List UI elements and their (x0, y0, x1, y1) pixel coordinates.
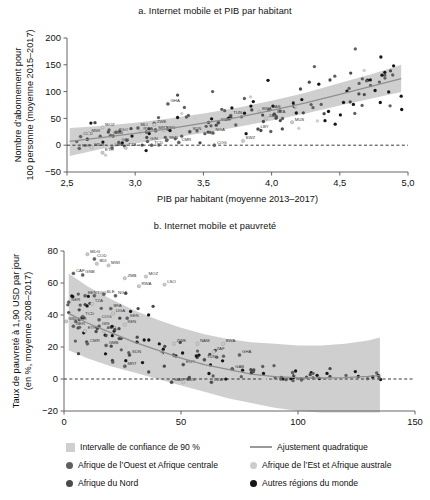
point-label-ner: NER (71, 297, 80, 302)
point-label-sle: SLE (106, 289, 114, 294)
panel-a-plot: CODNERMWIMDGMOZETHGMBTGOLBRGINTZAMLIRWAG… (0, 0, 430, 215)
x-tick-label: 4,5 (333, 177, 346, 188)
point-label-ago: AGO (106, 325, 116, 330)
data-point (220, 108, 223, 111)
data-point (230, 106, 233, 109)
data-point (100, 307, 103, 310)
data-point-tza (124, 146, 127, 149)
data-point-mli (136, 126, 139, 129)
dot-other-regions-icon (250, 480, 257, 487)
data-point-lby (256, 127, 259, 130)
x-tick-label: 3,5 (197, 177, 210, 188)
legend-item-north-africa: Afrique du Nord (66, 478, 138, 488)
legend-row-1: Intervalle de confiance de 90 % Ajusteme… (0, 442, 430, 458)
legend-item-quadratic-fit: Ajustement quadratique (250, 442, 368, 452)
data-point (74, 339, 77, 342)
legend-row-2: Afrique de l’Ouest et Afrique centrale A… (0, 460, 430, 476)
data-point (342, 101, 345, 104)
data-point (207, 372, 210, 375)
data-point-zmb (123, 277, 126, 280)
data-point (379, 55, 382, 58)
data-point-caf (72, 272, 75, 275)
data-point (309, 373, 312, 376)
data-point-cog (97, 318, 100, 321)
data-point (361, 77, 364, 80)
data-point (378, 80, 381, 83)
y-tick-label: 0 (53, 373, 58, 384)
data-point (349, 71, 352, 74)
legend-label-west-central-africa: Afrique de l’Ouest et Afrique centrale (78, 460, 218, 470)
data-point (210, 117, 213, 120)
svg-text:100 personne (moyenne 2015–201: 100 personne (moyenne 2015–2017) (25, 29, 35, 180)
data-point (400, 95, 403, 98)
data-point (117, 327, 120, 330)
point-label-nam: NAM (200, 338, 210, 343)
point-label-ben: BEN (169, 135, 178, 140)
data-point (281, 127, 284, 130)
legend: Intervalle de confiance de 90 % Ajusteme… (0, 440, 430, 500)
data-point (339, 84, 342, 87)
data-point (221, 359, 224, 362)
point-label-gin: GIN (121, 137, 129, 142)
y-tick-label: 50 (51, 113, 61, 124)
y-tick-label: −50 (45, 166, 61, 177)
data-point-ken (123, 323, 126, 326)
data-point (344, 374, 347, 377)
data-point-tun (229, 114, 232, 117)
data-point-cmr (86, 342, 89, 345)
data-point (243, 112, 246, 115)
data-point (261, 365, 264, 368)
point-label-mrt: MRT (127, 361, 137, 366)
data-point (333, 75, 336, 78)
data-point (181, 351, 184, 354)
panel-b-plot: MDGCODBDIMWICAFGNBZMBMOZRWALSONERBENTGOS… (0, 215, 430, 430)
data-point-egy (182, 363, 185, 366)
data-point (253, 120, 256, 123)
data-point (308, 81, 311, 84)
data-point-bwa (221, 342, 224, 345)
data-point (309, 103, 312, 106)
data-point-ben (165, 139, 168, 142)
data-point-eth (83, 329, 86, 332)
point-label-sdn: SDN (192, 126, 201, 131)
y-tick-label: 0 (56, 139, 61, 150)
panel-b: b. Internet mobile et pauvreté MDGCODBDI… (0, 215, 430, 430)
data-point (379, 101, 382, 104)
figure-container: a. Internet mobile et PIB par habitant C… (0, 0, 430, 500)
data-point-moz (101, 126, 104, 129)
dot-east-southern-africa-icon (250, 462, 257, 469)
data-point (294, 372, 297, 375)
point-label-mus: MUS (295, 117, 305, 122)
data-point (107, 335, 110, 338)
point-label-mus: MUS (186, 377, 196, 382)
data-point (279, 377, 282, 380)
data-point (187, 114, 190, 117)
data-point (281, 117, 284, 120)
data-point (311, 106, 314, 109)
data-point (77, 352, 80, 355)
y-tick-label: 80 (48, 245, 58, 256)
data-point-nga (211, 131, 214, 134)
data-point-mwi (87, 132, 90, 135)
data-point (183, 106, 186, 109)
point-label-bwa: BWA (226, 338, 236, 343)
data-point (392, 64, 395, 67)
data-point-gha (238, 353, 241, 356)
data-point-gmb (104, 344, 107, 347)
point-label-ken: KEN (127, 319, 136, 324)
data-point-bdi (95, 262, 98, 265)
data-point (297, 127, 300, 130)
data-point-lbr (110, 146, 113, 149)
point-label-cmr: CMR (181, 137, 191, 142)
data-point-sdn (188, 130, 191, 133)
point-label-moz: MOZ (105, 122, 115, 127)
data-point-bfa (109, 307, 112, 310)
data-point (196, 349, 199, 352)
data-point-cmr (177, 141, 180, 144)
x-tick-label: 3,0 (129, 177, 142, 188)
data-point (143, 338, 146, 341)
x-tick-label: 50 (176, 416, 186, 427)
point-label-rwa: RWA (142, 281, 152, 286)
point-label-cmr: CMR (90, 338, 100, 343)
data-point (198, 141, 201, 144)
